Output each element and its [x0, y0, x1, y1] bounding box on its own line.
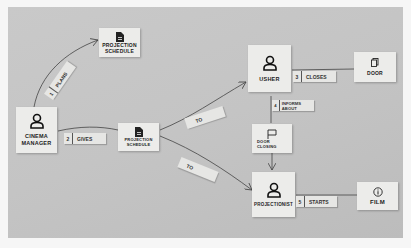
node-film[interactable]: Film: [357, 182, 398, 210]
node-projection-schedule-mid[interactable]: Projection Schedule: [118, 123, 159, 151]
node-label: Projectionist: [254, 201, 293, 208]
node-label: Projection Schedule: [118, 137, 159, 147]
edge-label-informs[interactable]: 4 Informs about: [272, 100, 314, 111]
edge-text: Closes: [302, 74, 331, 80]
edge-text: Informs about: [280, 101, 314, 111]
node-cinema-manager[interactable]: Cinema Manager: [16, 107, 57, 153]
copy-icon: [371, 58, 379, 67]
document-icon: [135, 127, 143, 137]
flag-icon: [267, 129, 277, 139]
node-projection-schedule-top[interactable]: Projection Schedule: [99, 28, 140, 57]
edge-label-gives[interactable]: 2 Gives: [64, 133, 106, 144]
edge-text: Starts: [305, 199, 333, 205]
node-label: Projection Schedule: [99, 42, 140, 54]
edge-number: 2: [64, 133, 73, 144]
person-icon: [29, 113, 45, 129]
edge-number: 3: [293, 71, 302, 82]
node-label: Cinema Manager: [20, 133, 54, 147]
edge-closes: [292, 69, 354, 70]
edge-label-starts[interactable]: 5 Starts: [296, 196, 337, 207]
edge-number: 4: [272, 100, 280, 111]
edge-number: 5: [296, 196, 305, 207]
info-icon: [373, 187, 383, 197]
person-icon: [262, 55, 278, 71]
node-projectionist[interactable]: Projectionist: [252, 172, 295, 217]
edge-label-closes[interactable]: 3 Closes: [293, 71, 336, 82]
node-label: Usher: [259, 76, 279, 83]
node-door[interactable]: Door: [354, 52, 396, 82]
document-icon: [116, 32, 124, 42]
connector-lines: [0, 0, 411, 248]
node-usher[interactable]: Usher: [248, 45, 291, 92]
node-label: Door: [367, 70, 383, 76]
node-label: Door Closing: [257, 139, 287, 149]
edge-to-projectionist: [160, 136, 252, 190]
node-door-closing[interactable]: Door Closing: [252, 124, 292, 153]
edge-gives: [58, 127, 118, 131]
node-label: Film: [370, 199, 385, 206]
edge-text: Gives: [73, 136, 96, 142]
person-icon: [266, 182, 282, 198]
